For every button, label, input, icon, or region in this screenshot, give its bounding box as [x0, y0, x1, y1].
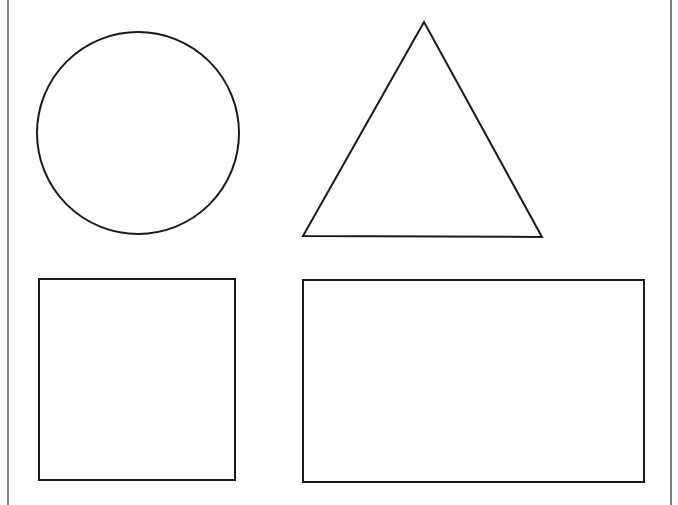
- circle-shape: [37, 32, 239, 234]
- triangle-shape: [303, 22, 542, 237]
- square-shape: [39, 279, 235, 480]
- rectangle-shape: [303, 280, 644, 482]
- shapes-canvas: [0, 0, 678, 505]
